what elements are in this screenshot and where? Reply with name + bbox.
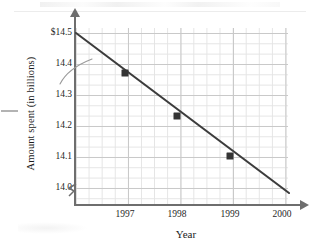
annotation-leader-line [60, 59, 92, 84]
data-point-marker [227, 153, 234, 160]
trend-line [76, 33, 289, 193]
chart-figure: $14.5 14.4 14.3 14.2 14.1 14.0 1997 1998… [0, 0, 319, 252]
chart-ink-layer [0, 0, 319, 252]
data-point-marker [122, 70, 129, 77]
y-axis-break-icon [69, 184, 76, 196]
data-point-marker [174, 113, 181, 120]
